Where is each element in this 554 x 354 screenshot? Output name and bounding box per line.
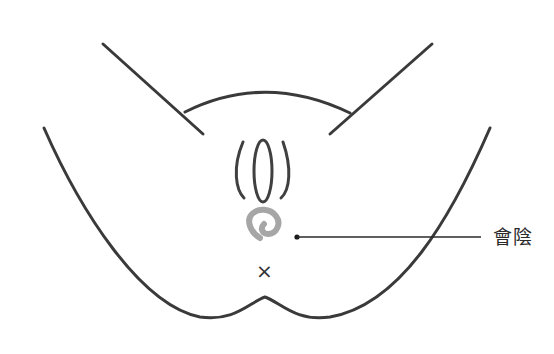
- anus-marker: ×: [256, 259, 273, 283]
- huiyin-label: 會陰: [493, 222, 533, 249]
- abdomen-arc: [185, 92, 350, 113]
- huiyin-point-spiral: [249, 210, 278, 238]
- anatomy-diagram: ×: [0, 0, 554, 354]
- right-labia-line: [281, 142, 289, 198]
- body-outline: [44, 128, 490, 318]
- center-oval: [254, 140, 272, 202]
- left-labia-line: [236, 142, 244, 198]
- left-thigh-line: [103, 44, 203, 134]
- right-thigh-line: [330, 44, 432, 134]
